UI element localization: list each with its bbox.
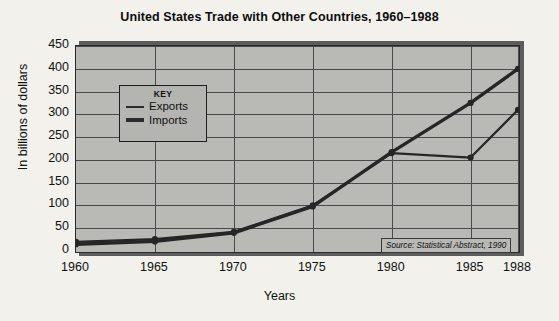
y-axis-tick: 0 <box>25 242 69 256</box>
legend-title: KEY <box>120 89 206 99</box>
x-axis-tick: 1975 <box>290 260 334 274</box>
legend-box: KEY Exports Imports <box>119 85 207 142</box>
data-point-marker <box>310 203 316 209</box>
x-axis-tick: 1988 <box>495 260 539 274</box>
x-axis-tick: 1970 <box>211 260 255 274</box>
y-axis-tick: 250 <box>25 128 69 142</box>
y-axis-tick: 150 <box>25 174 69 188</box>
x-axis-tick: 1980 <box>369 260 413 274</box>
y-axis-tick: 300 <box>25 105 69 119</box>
data-point-marker <box>231 230 237 236</box>
x-axis-tick: 1960 <box>53 260 97 274</box>
y-axis-label: In billions of dollars <box>16 22 30 212</box>
y-axis-tick: 400 <box>25 60 69 74</box>
y-axis-tick: 450 <box>25 37 69 51</box>
source-note: Source: Statistical Abstract, 1990 <box>381 238 511 253</box>
legend-label-exports: Exports <box>149 101 188 113</box>
y-axis-tick: 350 <box>25 83 69 97</box>
legend-swatch-exports-icon <box>126 106 144 108</box>
legend-item-exports: Exports <box>126 101 206 113</box>
data-point-marker <box>468 155 474 161</box>
y-axis-tick: 200 <box>25 151 69 165</box>
data-point-marker <box>389 149 395 155</box>
plot-area <box>75 45 520 253</box>
chart-title: United States Trade with Other Countries… <box>0 10 559 24</box>
data-point-marker <box>152 238 158 244</box>
x-axis-tick: 1965 <box>132 260 176 274</box>
gridline-vertical <box>518 46 519 252</box>
series-lines <box>76 46 518 251</box>
y-axis-tick: 50 <box>25 219 69 233</box>
chart-container: United States Trade with Other Countries… <box>0 0 559 321</box>
legend-item-imports: Imports <box>126 115 206 127</box>
data-point-marker <box>468 100 474 106</box>
x-axis-tick: 1985 <box>448 260 492 274</box>
legend-swatch-imports-icon <box>126 118 144 122</box>
legend-label-imports: Imports <box>149 115 187 127</box>
x-axis-label: Years <box>0 289 559 303</box>
y-axis-tick: 100 <box>25 196 69 210</box>
